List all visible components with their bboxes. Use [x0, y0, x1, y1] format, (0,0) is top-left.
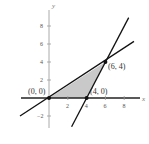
y-tick-neg2: −2	[37, 113, 43, 119]
point-6-4	[103, 60, 107, 64]
label-point-4-0: (4, 0)	[90, 87, 108, 96]
x-tick-8: 8	[122, 103, 125, 109]
line-4-0-to-6-4	[72, 18, 129, 127]
y-tick-6: 6	[40, 41, 43, 47]
point-0-0	[47, 96, 51, 100]
y-tick-2: 2	[40, 77, 43, 83]
label-point-6-4: (6, 4)	[108, 62, 126, 71]
y-tick-8: 8	[40, 23, 43, 29]
label-point-0-0: (0, 0)	[28, 87, 46, 96]
line-origin-to-6-4	[20, 41, 134, 116]
point-4-0	[85, 96, 89, 100]
y-tick-4: 4	[40, 59, 43, 65]
x-tick-6: 6	[104, 103, 107, 109]
x-axis-label: x	[141, 95, 146, 103]
x-tick-2: 2	[66, 103, 69, 109]
graph: y x 2 4 6 8 8 6 4 2 −2 (0, 0) (4, 0) (6,…	[0, 0, 149, 144]
x-tick-4: 4	[85, 103, 88, 109]
y-axis-label: y	[51, 2, 56, 10]
